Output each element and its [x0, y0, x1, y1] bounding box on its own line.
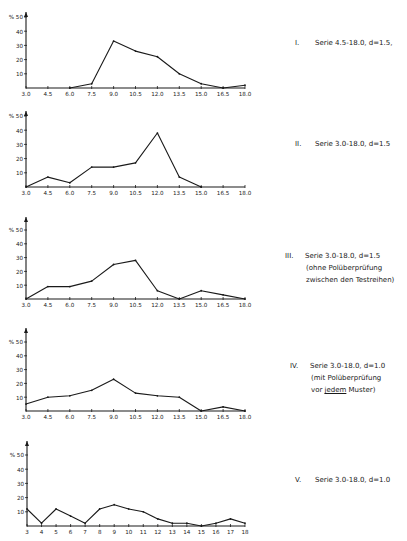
x-tick-label: 5 [54, 529, 58, 535]
data-point [135, 259, 137, 261]
x-tick-label: 12.0 [151, 302, 164, 308]
data-point [200, 410, 202, 412]
x-tick-label: 13.5 [173, 414, 186, 420]
x-tick-label: 10.5 [129, 91, 142, 97]
series-label-note: zwischen den Testreihen) [285, 274, 394, 286]
data-point [91, 83, 93, 85]
x-tick-label: 4 [40, 529, 44, 535]
x-tick-label: 12.0 [151, 414, 164, 420]
y-tick-label: 10 [16, 170, 24, 176]
x-tick-label: 12.0 [151, 190, 164, 196]
data-point [201, 525, 203, 527]
x-tick-label: 18.0 [239, 91, 252, 97]
y-tick-label: 20 [16, 156, 24, 162]
y-tick-label: 40 [16, 353, 24, 359]
series-label-II: II.Serie 3.0-18.0, d=1.5 [295, 138, 390, 150]
series-label-text: Serie 3.0-18.0, d=1.5 [305, 252, 380, 260]
x-tick-label: 9.0 [109, 91, 118, 97]
y-tick-label: 10 [17, 509, 25, 515]
x-tick-label: 18.0 [239, 190, 252, 196]
x-tick-label: 6.0 [65, 414, 74, 420]
series-numeral: V. [295, 474, 315, 486]
x-tick-label: 15.0 [195, 302, 208, 308]
series-label-text: Serie 3.0-18.0, d=1.0 [310, 362, 385, 370]
data-point [25, 403, 27, 405]
y-tick-label: % 50 [9, 227, 24, 233]
data-point [244, 298, 246, 300]
arrow-up-icon [24, 217, 28, 222]
x-tick-label: 15.0 [195, 91, 208, 97]
data-point [135, 162, 137, 164]
data-point [25, 298, 27, 300]
data-point [178, 298, 180, 300]
x-tick-label: 7.5 [87, 190, 96, 196]
data-point [200, 186, 202, 188]
x-tick-label: 15.0 [195, 190, 208, 196]
x-tick-label: 16.5 [217, 414, 230, 420]
y-tick-label: 20 [16, 381, 24, 387]
data-point [113, 40, 115, 42]
y-tick-label: 10 [16, 283, 24, 289]
chart-I: 10203040% 503.04.56.07.59.010.512.013.51… [9, 12, 252, 97]
data-point [91, 166, 93, 168]
data-point [69, 395, 71, 397]
data-point [215, 522, 217, 524]
y-tick-label: 20 [16, 269, 24, 275]
x-tick-label: 9 [112, 529, 116, 535]
series-numeral: IV. [290, 360, 310, 372]
series-label-text: Serie 4.5-18.0, d=1.5, [315, 39, 392, 47]
data-point [70, 515, 72, 517]
data-line [26, 379, 245, 411]
data-point [157, 518, 159, 520]
data-point [113, 264, 115, 266]
arrow-up-icon [25, 441, 29, 446]
series-label-I: I.Serie 4.5-18.0, d=1.5, [295, 37, 392, 49]
chart-V: 10203040% 503456789101112131415161718 [10, 441, 249, 535]
x-tick-label: 15 [198, 529, 206, 535]
data-point [157, 395, 159, 397]
data-line [26, 260, 245, 299]
data-point [244, 410, 246, 412]
y-tick-label: % 50 [9, 14, 24, 20]
x-tick-label: 17 [227, 529, 235, 535]
x-tick-label: 10.5 [129, 414, 142, 420]
y-tick-label: 30 [16, 367, 24, 373]
data-point [41, 522, 43, 524]
series-label-text: Serie 3.0-18.0, d=1.5 [315, 140, 390, 148]
arrow-up-icon [24, 111, 28, 116]
data-point [113, 378, 115, 380]
x-tick-label: 15.0 [195, 414, 208, 420]
data-point [69, 286, 71, 288]
data-point [47, 396, 49, 398]
series-label-text: Serie 3.0-18.0, d=1.0 [315, 476, 390, 484]
series-label-note: (mit Polüberprüfung [290, 372, 385, 384]
y-tick-label: 20 [17, 495, 25, 501]
y-tick-label: 30 [17, 481, 25, 487]
x-tick-label: 4.5 [43, 302, 52, 308]
series-numeral: I. [295, 37, 315, 49]
chart-IV: 10203040% 503.04.56.07.59.010.512.013.51… [9, 328, 252, 420]
x-tick-label: 4.5 [43, 190, 52, 196]
x-tick-label: 7.5 [87, 91, 96, 97]
y-tick-label: 20 [16, 57, 24, 63]
y-tick-label: 40 [16, 128, 24, 134]
x-tick-label: 8 [98, 529, 102, 535]
data-point [157, 132, 159, 134]
x-tick-label: 16.5 [217, 302, 230, 308]
data-point [178, 73, 180, 75]
data-point [113, 504, 115, 506]
x-tick-label: 4.5 [43, 91, 52, 97]
series-label-V: V.Serie 3.0-18.0, d=1.0 [295, 474, 390, 486]
data-line [70, 41, 245, 88]
y-tick-label: 10 [16, 395, 24, 401]
x-tick-label: 4.5 [43, 414, 52, 420]
x-tick-label: 12 [154, 529, 161, 535]
x-tick-label: 16.5 [217, 190, 230, 196]
y-tick-label: 10 [16, 71, 24, 77]
data-point [47, 286, 49, 288]
data-point [91, 389, 93, 391]
data-point [47, 176, 49, 178]
chart-III: 10203040% 503.04.56.07.59.010.512.013.51… [9, 217, 252, 308]
data-point [91, 280, 93, 282]
data-point [135, 50, 137, 52]
